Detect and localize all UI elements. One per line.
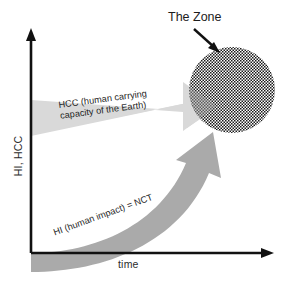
x-axis-label: time [118,258,139,270]
zone-label: The Zone [168,10,222,24]
y-axis-label: HI, HCC [12,126,24,186]
zone-annotation-arrow [194,29,220,53]
y-axis [26,28,36,253]
figure-canvas: The Zone HCC (human carrying capacity of… [0,0,282,284]
figure-graphics [0,0,282,284]
